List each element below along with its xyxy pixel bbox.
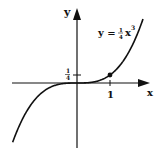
x-axis-label: x (147, 87, 154, 98)
y-tick-label-quarter: 1 4 (65, 67, 70, 81)
cubic-curve (13, 19, 143, 142)
highlighted-point (108, 73, 113, 78)
x-tick-label-1: 1 (107, 89, 114, 100)
frac-num: 1 (66, 67, 70, 74)
cubic-function-graph: y x 1 1 4 y = 1 4 x 3 (0, 0, 160, 157)
eq-lhs: y = (97, 27, 116, 38)
y-axis-arrow-icon (73, 8, 81, 20)
y-axis-label: y (63, 6, 71, 19)
frac-den: 4 (66, 74, 70, 81)
eq-frac-den: 4 (119, 34, 123, 40)
x-axis-arrow-icon (138, 79, 150, 87)
eq-exp: 3 (131, 24, 135, 31)
equation-label: y = 1 4 x 3 (97, 24, 135, 40)
eq-frac-num: 1 (119, 27, 123, 33)
